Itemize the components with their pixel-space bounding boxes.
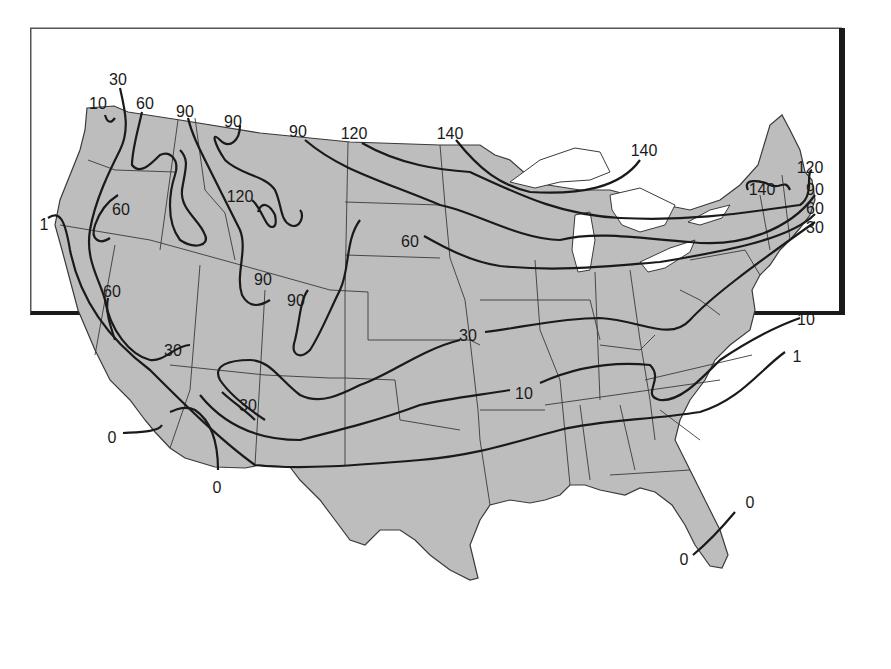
isoline-map xyxy=(0,0,891,669)
lake-superior xyxy=(510,148,610,188)
contour-label: 140 xyxy=(437,126,464,142)
contour-label: 120 xyxy=(227,189,254,205)
contour-label: 90 xyxy=(806,182,824,198)
contour-label: 140 xyxy=(749,182,776,198)
contour-label: 90 xyxy=(224,114,242,130)
contour-label: 1 xyxy=(793,349,802,365)
contour-label: 60 xyxy=(806,201,824,217)
contour-label: 30 xyxy=(164,343,182,359)
contour-label: 90 xyxy=(287,293,305,309)
contour-label: 0 xyxy=(108,430,117,446)
contour-label: 60 xyxy=(401,234,419,250)
contour-label: 90 xyxy=(254,272,272,288)
contour-label: 0 xyxy=(746,495,755,511)
contour-label: 90 xyxy=(176,104,194,120)
contour-label: 60 xyxy=(136,96,154,112)
contour-label: 30 xyxy=(459,328,477,344)
contour-label: 90 xyxy=(289,124,307,140)
contour-label: 60 xyxy=(103,284,121,300)
contour-label: 140 xyxy=(631,143,658,159)
lake-michigan xyxy=(572,212,595,272)
contour-label: 10 xyxy=(797,312,815,328)
contour-label: 120 xyxy=(341,126,368,142)
contour-label: 30 xyxy=(806,220,824,236)
contour-label: 0 xyxy=(213,480,222,496)
contour-label: 1 xyxy=(40,217,49,233)
contour-label: 30 xyxy=(239,398,257,414)
contour-label: 0 xyxy=(680,552,689,568)
contour-label: 10 xyxy=(515,386,533,402)
contour-label: 30 xyxy=(109,72,127,88)
contour-label: 60 xyxy=(112,202,130,218)
contour-label: 10 xyxy=(89,96,107,112)
contour-label: 120 xyxy=(797,160,824,176)
